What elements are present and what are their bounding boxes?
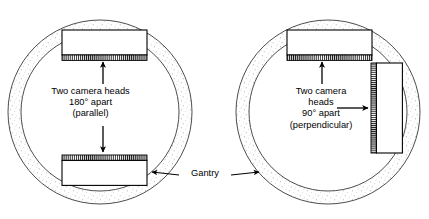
right-caption-line-3: 90° apart (302, 108, 340, 118)
left-caption-line-3: (parallel) (72, 108, 108, 118)
collimator-bottom-left (62, 155, 147, 160)
left-camera-head-top (62, 30, 147, 60)
right-caption-line-4: (perpendicular) (290, 120, 353, 130)
left-configuration-caption: Two camera heads180° apart(parallel) (33, 86, 148, 120)
gantry-label: Gantry (181, 168, 229, 179)
left-caption-line-1: Two camera heads (51, 86, 130, 96)
collimator-top-left (62, 55, 147, 60)
right-camera-head-top (287, 30, 372, 60)
collimator-top-right (287, 55, 372, 60)
right-camera-head-side (371, 63, 402, 153)
left-camera-head-bottom (62, 155, 147, 185)
right-configuration-caption: Two cameraheads90° apart(perpendicular) (272, 86, 370, 131)
collimator-side-right (371, 63, 376, 153)
left-caption-line-2: 180° apart (69, 97, 112, 107)
right-caption-line-2: heads (308, 97, 333, 107)
gantry-arrow-right (231, 172, 259, 175)
right-caption-line-1: Two camera (296, 86, 347, 96)
